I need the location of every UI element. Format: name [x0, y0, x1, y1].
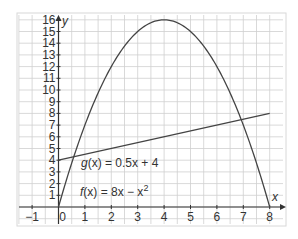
function-graph: −101234567812345678910111213141516 g(x) …	[0, 0, 298, 239]
x-tick-label: 6	[214, 210, 221, 224]
x-tick-label: 8	[266, 210, 273, 224]
x-tick-label: 0	[59, 210, 66, 224]
x-tick-label: 4	[161, 210, 168, 224]
x-tick-label: 5	[187, 210, 194, 224]
chart-frame	[17, 13, 286, 226]
y-tick-label: 16	[42, 13, 56, 27]
x-tick-label: 1	[82, 210, 89, 224]
y-axis-label: y	[61, 14, 69, 28]
x-tick-label: 2	[108, 210, 115, 224]
x-tick-label: 3	[134, 210, 141, 224]
x-axis-label: x	[271, 190, 279, 204]
x-tick-label: 7	[240, 210, 247, 224]
x-tick-label: −1	[25, 210, 39, 224]
f-label: f(x) = 8x − x2	[80, 183, 148, 199]
g-label: g(x) = 0.5x + 4	[81, 156, 159, 170]
